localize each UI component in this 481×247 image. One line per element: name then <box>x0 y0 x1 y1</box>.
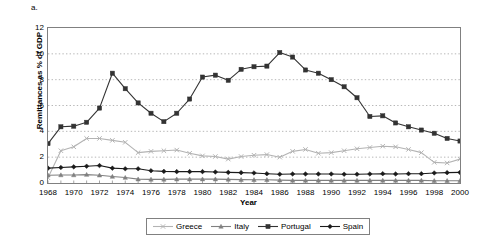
data-point-marker <box>277 172 282 177</box>
x-tick-label: 1994 <box>374 188 392 197</box>
data-point-marker <box>278 50 282 54</box>
data-point-marker <box>136 101 140 105</box>
legend-marker-diamond-icon <box>320 222 340 231</box>
x-tick-label: 1974 <box>116 188 134 197</box>
legend-label: Greece <box>176 223 202 231</box>
data-point-marker <box>303 68 307 72</box>
x-axis-title-container: Year <box>0 198 481 207</box>
x-tick-label: 1996 <box>400 188 418 197</box>
data-point-marker <box>381 114 385 118</box>
x-tick-label: 1970 <box>65 188 83 197</box>
data-point-marker <box>72 124 76 128</box>
data-point-marker <box>136 166 141 171</box>
y-tick-label: 6 <box>28 102 44 110</box>
data-point-marker <box>342 85 346 89</box>
data-point-marker <box>316 172 321 177</box>
data-point-marker <box>406 125 410 129</box>
legend-label: Portugal <box>281 223 311 231</box>
data-point-marker <box>419 171 424 176</box>
x-tick-label: 1988 <box>297 188 315 197</box>
data-point-marker <box>85 120 89 124</box>
legend-item-spain[interactable]: Spain <box>320 222 363 231</box>
data-point-marker <box>368 114 372 118</box>
data-point-marker <box>291 55 295 59</box>
data-point-marker <box>97 163 102 168</box>
data-point-marker <box>71 165 76 170</box>
data-point-marker <box>458 139 460 143</box>
data-point-marker <box>458 170 460 175</box>
chart-canvas <box>48 28 460 183</box>
data-point-marker <box>327 224 332 229</box>
data-point-marker <box>355 172 360 177</box>
data-point-marker <box>329 78 333 82</box>
y-tick-label: 10 <box>28 50 44 58</box>
data-point-marker <box>174 169 179 174</box>
data-point-marker <box>110 166 115 171</box>
data-point-marker <box>200 169 205 174</box>
data-point-marker <box>226 78 230 82</box>
data-point-marker <box>419 128 423 132</box>
data-point-marker <box>265 64 269 68</box>
data-point-marker <box>355 96 359 100</box>
data-point-marker <box>265 171 270 176</box>
x-tick-label: 1968 <box>39 188 57 197</box>
x-tick-label: 1978 <box>168 188 186 197</box>
data-point-marker <box>342 172 347 177</box>
plot-area <box>47 27 461 184</box>
data-point-marker <box>380 171 385 176</box>
data-point-marker <box>48 166 50 171</box>
data-point-marker <box>123 166 128 171</box>
legend-marker-square-icon <box>258 222 278 231</box>
x-tick-label: 1972 <box>91 188 109 197</box>
legend-item-greece[interactable]: Greece <box>153 222 202 231</box>
data-point-marker <box>226 170 231 175</box>
data-point-marker <box>84 164 89 169</box>
x-tick-label: 1984 <box>245 188 263 197</box>
series-spain <box>48 163 460 176</box>
legend-marker-x-icon <box>153 222 173 231</box>
x-tick-label: 1980 <box>194 188 212 197</box>
data-point-marker <box>123 87 127 91</box>
data-point-marker <box>445 136 449 140</box>
data-point-marker <box>162 120 166 124</box>
data-point-marker <box>316 71 320 75</box>
data-point-marker <box>110 71 114 75</box>
y-tick-label: 2 <box>28 153 44 161</box>
data-point-marker <box>48 142 50 146</box>
legend-marker-triangle-icon <box>211 222 231 231</box>
y-tick-label: 12 <box>28 24 44 32</box>
data-point-marker <box>188 97 192 101</box>
x-tick-label: 1976 <box>142 188 160 197</box>
data-point-marker <box>97 106 101 110</box>
y-axis-title-container: Remittances as % of GDP <box>8 30 22 180</box>
x-tick-label: 1990 <box>322 188 340 197</box>
data-point-marker <box>162 169 167 174</box>
data-point-marker <box>213 73 217 77</box>
legend-item-portugal[interactable]: Portugal <box>258 222 311 231</box>
data-point-marker <box>290 172 295 177</box>
data-point-marker <box>406 171 411 176</box>
data-point-marker <box>252 65 256 69</box>
x-tick-label: 1998 <box>425 188 443 197</box>
data-point-marker <box>394 121 398 125</box>
chart-legend: GreeceItalyPortugalSpain <box>146 218 370 235</box>
data-point-marker <box>393 172 398 177</box>
data-point-marker <box>303 172 308 177</box>
data-point-marker <box>432 131 436 135</box>
x-tick-label: 1992 <box>348 188 366 197</box>
x-tick-label: 1982 <box>219 188 237 197</box>
data-point-marker <box>329 172 334 177</box>
y-tick-label: 0 <box>28 179 44 187</box>
data-point-marker <box>239 67 243 71</box>
y-tick-label: 8 <box>28 76 44 84</box>
data-point-marker <box>149 168 154 173</box>
data-point-marker <box>445 170 450 175</box>
y-axis-tick-labels: 024681012 <box>26 0 44 247</box>
data-point-marker <box>213 170 218 175</box>
legend-item-italy[interactable]: Italy <box>211 222 249 231</box>
data-point-marker <box>149 111 153 115</box>
data-point-marker <box>266 224 270 228</box>
x-tick-label: 2000 <box>451 188 469 197</box>
data-point-marker <box>175 111 179 115</box>
y-tick-label: 4 <box>28 127 44 135</box>
